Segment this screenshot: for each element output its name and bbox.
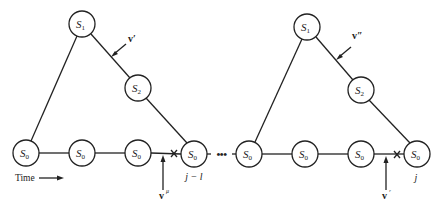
state-node-r-s0b: S0 [292,141,318,167]
state-node-r-s1: S1 [294,14,320,40]
label-v-double-prime: v″ [352,30,363,41]
state-node-r-s0d: S0 [404,141,430,167]
state-node-l-s0d: S0 [181,141,207,167]
state-node-l-s0a: S0 [13,140,39,166]
label-v-prime: v′ [128,33,136,44]
state-node-r-s0c: S0 [348,141,374,167]
ellipsis-dots: ••• [216,148,227,160]
state-transition-diagram: S1S2S0S0S0S0S1S2S0S0S0S0 v′ v″ v μ v ʳ j… [0,0,442,209]
edge-r-s2-s0d [369,100,410,143]
label-index-j-minus-l: j − l [183,171,203,182]
state-node-l-s1: S1 [69,11,95,37]
label-v-r-right-sup: ʳ [389,188,391,196]
time-arrow [39,176,64,181]
edge-l-bottom-3 [151,153,181,154]
arrow-v-r-right [384,156,389,190]
state-node-r-s0a: S0 [236,141,262,167]
label-index-j: j [413,172,418,183]
label-time: Time [15,173,35,183]
edge-l-s0a-s1 [31,36,77,141]
arrow-v-mu-left [161,155,166,190]
label-v-r-right: v [382,190,387,201]
arrow-v-prime [111,44,126,57]
edge-r-s1-s2 [316,37,353,80]
edge-l-s1-s2 [91,34,130,78]
state-node-l-s2: S2 [125,75,151,101]
state-node-l-s0c: S0 [125,140,151,166]
state-node-l-s0b: S0 [69,140,95,166]
edge-r-s0a-s1 [255,39,302,142]
arrow-v-double-prime [336,47,351,60]
label-v-mu-left: v [159,190,164,201]
edge-l-s2-s0d [146,98,187,143]
state-node-r-s2: S2 [348,77,374,103]
label-v-mu-left-sup: μ [166,188,169,194]
